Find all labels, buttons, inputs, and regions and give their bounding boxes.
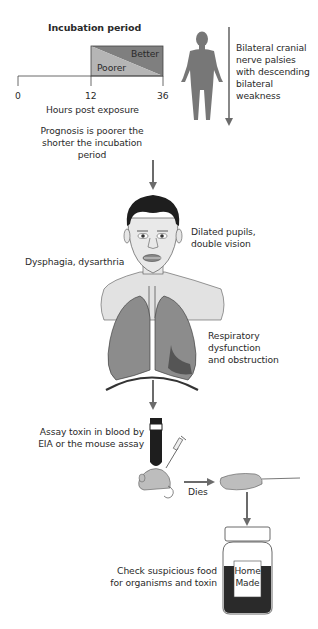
jar-label-line: Home bbox=[234, 565, 261, 577]
face-illustration bbox=[124, 195, 182, 274]
label-line: Respiratory bbox=[208, 330, 279, 342]
dilated-pupils-label: Dilated pupils, double vision bbox=[191, 226, 256, 250]
body-line: weakness bbox=[236, 90, 318, 102]
body-line: bilateral bbox=[236, 78, 318, 90]
body-description: Bilateral cranial nerve palsies with des… bbox=[236, 42, 318, 102]
body-line: with descending bbox=[236, 66, 318, 78]
tick-36: 36 bbox=[157, 90, 169, 102]
label-line: and obstruction bbox=[208, 354, 279, 366]
tick-0: 0 bbox=[15, 90, 21, 102]
body-line: Bilateral cranial bbox=[236, 42, 318, 54]
label-line: Check suspicious food bbox=[80, 565, 217, 577]
better-label: Better bbox=[131, 48, 159, 60]
body-line: nerve palsies bbox=[236, 54, 318, 66]
label-line: double vision bbox=[191, 238, 256, 250]
dysphagia-label: Dysphagia, dysarthria bbox=[25, 256, 124, 268]
dead-mouse-icon bbox=[220, 474, 300, 490]
prognosis-text: Prognosis is poorer the shorter the incu… bbox=[32, 125, 152, 161]
blood-tube-icon bbox=[150, 418, 162, 466]
label-line: for organisms and toxin bbox=[80, 577, 217, 589]
label-line: Dilated pupils, bbox=[191, 226, 256, 238]
respiratory-label: Respiratory dysfunction and obstruction bbox=[208, 330, 279, 366]
label-line: EIA or the mouse assay bbox=[20, 438, 144, 450]
human-body-icon bbox=[181, 32, 223, 121]
label-line: dysfunction bbox=[208, 342, 279, 354]
live-mouse-icon bbox=[139, 469, 174, 498]
jar-label-line: Made bbox=[234, 577, 261, 589]
poorer-label: Poorer bbox=[97, 62, 126, 74]
axis-label: Hours post exposure bbox=[46, 104, 139, 116]
food-label: Check suspicious food for organisms and … bbox=[80, 565, 217, 589]
dies-label: Dies bbox=[188, 486, 208, 498]
assay-label: Assay toxin in blood by EIA or the mouse… bbox=[20, 426, 144, 450]
jar-label: Home Made bbox=[234, 565, 261, 589]
tick-12: 12 bbox=[85, 90, 97, 102]
incubation-title: Incubation period bbox=[48, 22, 141, 34]
syringe-icon bbox=[166, 436, 186, 468]
label-line: Assay toxin in blood by bbox=[20, 426, 144, 438]
